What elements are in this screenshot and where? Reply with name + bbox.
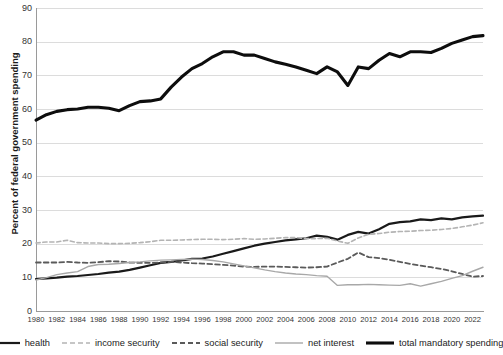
- series-line-income-security: [36, 223, 483, 244]
- legend-swatch-icon: [61, 338, 91, 348]
- legend-item-total-mandatory-spending[interactable]: total mandatory spending: [365, 338, 503, 348]
- series-line-total-mandatory-spending: [36, 36, 483, 121]
- legend-item-income-security[interactable]: income security: [61, 338, 160, 348]
- legend-swatch-icon: [274, 338, 304, 348]
- legend-label: net interest: [308, 338, 354, 348]
- legend-swatch-icon: [171, 338, 201, 348]
- legend-swatch-icon: [365, 338, 395, 348]
- legend-label: total mandatory spending: [399, 338, 503, 348]
- chart-legend: healthincome securitysocial securitynet …: [0, 334, 494, 352]
- legend-label: income security: [95, 338, 160, 348]
- legend-label: health: [25, 338, 50, 348]
- legend-label: social security: [205, 338, 263, 348]
- legend-item-net-interest[interactable]: net interest: [274, 338, 354, 348]
- legend-item-social-security[interactable]: social security: [171, 338, 263, 348]
- legend-swatch-icon: [0, 338, 21, 348]
- legend-item-health[interactable]: health: [0, 338, 50, 348]
